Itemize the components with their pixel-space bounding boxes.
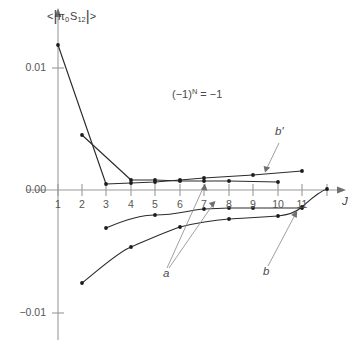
- y-axis-title: <|π0 S12|>: [47, 8, 96, 24]
- x-tick-label-9: 9: [245, 199, 261, 210]
- x-axis-group: [26, 184, 346, 196]
- parity-annotation-base: (−1): [172, 88, 192, 100]
- y-tick-label-2: −0.01: [4, 307, 46, 318]
- x-tick-label-3: 3: [98, 199, 114, 210]
- x-tick-label-11: 11: [294, 199, 310, 210]
- series-upper-flat: [80, 133, 280, 184]
- y-tick-label-1: 0.00: [8, 184, 46, 195]
- series-b-prime: [56, 43, 304, 186]
- x-tick-label-10: 10: [270, 199, 286, 210]
- x-axis-arrow-icon: [337, 187, 346, 194]
- x-tick-label-8: 8: [221, 199, 237, 210]
- series-label-b: b: [263, 266, 269, 278]
- x-tick-label-4: 4: [123, 199, 139, 210]
- x-axis-title: J: [342, 196, 348, 208]
- y-axis-title-pi: π: [57, 10, 65, 22]
- x-tick-label-6: 6: [172, 199, 188, 210]
- plot-canvas: [0, 0, 358, 350]
- x-tick-label-5: 5: [147, 199, 163, 210]
- y-axis-title-pi-sub: 0: [65, 15, 69, 24]
- parity-annotation-tail: = −1: [197, 88, 222, 100]
- x-tick-label-1: 1: [50, 199, 66, 210]
- chart-figure: <|π0 S12|> 0.01 0.00 −0.01 1 2 3 4 5 6 7…: [0, 0, 358, 350]
- x-tick-label-7: 7: [196, 199, 212, 210]
- series-label-a: a: [163, 268, 169, 280]
- y-axis-title-close: >: [90, 10, 96, 22]
- y-tick-label-0: 0.01: [8, 62, 46, 73]
- series-label-b-prime: b′: [275, 126, 284, 138]
- y-axis-title-s-sub: 12: [77, 15, 85, 24]
- parity-annotation: (−1)N = −1: [172, 88, 222, 100]
- x-tick-label-2: 2: [74, 199, 90, 210]
